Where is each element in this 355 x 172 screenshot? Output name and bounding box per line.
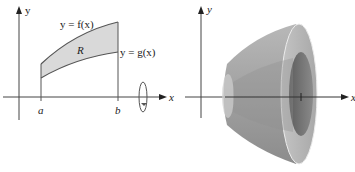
region-label: R [76,44,84,56]
y-axis-arrow-icon [16,6,22,14]
x-axis-arrow-icon [341,94,349,100]
solid-graph: y x [175,0,355,172]
solid-back-cap [222,74,234,118]
x-axis-arrow-icon [159,94,167,100]
tick-a-label: a [38,104,44,116]
solid-of-revolution-panel: y x [175,0,355,172]
y-axis-label: y [206,3,212,15]
x-axis-label: x [350,91,355,103]
x-axis-label: x [168,91,174,103]
y-axis-arrow-icon [198,6,204,14]
region-diagram-panel: y x y = f(x) y = g(x) R a b [0,0,180,172]
lower-curve-label: y = g(x) [120,46,156,59]
tick-b-label: b [115,104,121,116]
region-graph: y x y = f(x) y = g(x) R a b [0,0,180,172]
upper-curve-label: y = f(x) [60,18,94,31]
y-axis-label: y [25,4,31,16]
